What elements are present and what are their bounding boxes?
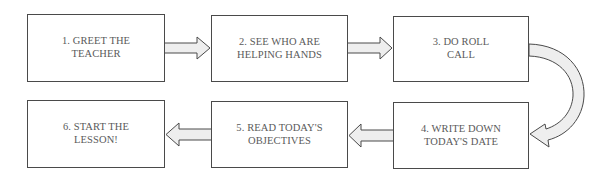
step-3-roll-call: 3. DO ROLL CALL xyxy=(393,16,529,82)
arrow-left-icon xyxy=(166,123,211,146)
step-5-label: 5. READ TODAY'S OBJECTIVES xyxy=(236,121,322,147)
step-1-greet-teacher: 1. GREET THE TEACHER xyxy=(27,14,165,82)
arrow-right-icon xyxy=(348,37,392,59)
curved-arrow-icon xyxy=(529,44,584,147)
step-3-label: 3. DO ROLL CALL xyxy=(433,35,490,61)
step-6-start-lesson: 6. START THE LESSON! xyxy=(27,100,165,168)
step-1-label: 1. GREET THE TEACHER xyxy=(62,34,130,60)
step-2-label: 2. SEE WHO ARE HELPING HANDS xyxy=(237,35,322,61)
step-6-label: 6. START THE LESSON! xyxy=(63,120,129,146)
step-2-helping-hands: 2. SEE WHO ARE HELPING HANDS xyxy=(211,15,348,82)
step-5-read-objectives: 5. READ TODAY'S OBJECTIVES xyxy=(211,101,348,168)
arrow-left-icon xyxy=(349,124,393,147)
step-4-label: 4. WRITE DOWN TODAY'S DATE xyxy=(421,122,501,148)
step-4-write-date: 4. WRITE DOWN TODAY'S DATE xyxy=(393,102,529,169)
arrow-right-icon xyxy=(165,37,210,59)
